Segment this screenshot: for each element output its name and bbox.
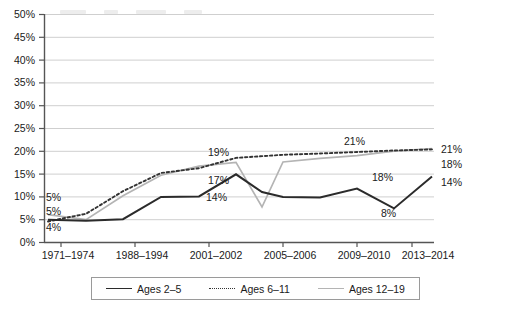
chart-legend: Ages 2–5 Ages 6–11 Ages 12–19 bbox=[91, 277, 420, 300]
legend-swatch-dotted-icon bbox=[209, 288, 235, 289]
y-tick-label-10: 10% bbox=[14, 190, 35, 202]
y-tick-label-0: 0% bbox=[20, 236, 35, 248]
data-label-right-ages-6-11: 21% bbox=[344, 135, 365, 147]
data-label-start-ages-12-19: 5% bbox=[46, 191, 61, 203]
cropped-title-artifact bbox=[60, 0, 420, 7]
x-tick-label-2005-2006: 2005–2006 bbox=[264, 249, 317, 261]
y-tick-label-40: 40% bbox=[14, 54, 35, 66]
x-tick-label-2009-2010: 2009–2010 bbox=[338, 249, 391, 261]
y-tick-label-15: 15% bbox=[14, 168, 35, 180]
data-label-mid-ages-12-19: 19% bbox=[208, 146, 229, 158]
line-chart-svg: 50% 45% 40% 35% 30% 25% 20% 15% 10% 5% 0… bbox=[0, 0, 511, 311]
data-label-end-ages-12-19: 18% bbox=[441, 158, 462, 170]
y-tick-label-25: 25% bbox=[14, 122, 35, 134]
legend-item-ages-2-5[interactable]: Ages 2–5 bbox=[106, 283, 181, 295]
series-line-ages-12-19 bbox=[48, 149, 432, 220]
legend-swatch-solid-gray-icon bbox=[318, 288, 344, 289]
x-tick-label-1988-1994: 1988–1994 bbox=[116, 249, 169, 261]
chart-container: 50% 45% 40% 35% 30% 25% 20% 15% 10% 5% 0… bbox=[0, 0, 511, 311]
y-tick-label-5: 5% bbox=[20, 213, 35, 225]
data-label-mid-ages-6-11: 17% bbox=[208, 174, 229, 186]
legend-item-ages-6-11[interactable]: Ages 6–11 bbox=[209, 283, 289, 295]
y-axis-ticks bbox=[39, 15, 44, 243]
data-label-right-ages-2-5: 8% bbox=[381, 207, 396, 219]
data-label-right-ages-12-19: 18% bbox=[372, 171, 393, 183]
y-tick-label-45: 45% bbox=[14, 31, 35, 43]
legend-label-ages-6-11: Ages 6–11 bbox=[240, 283, 289, 295]
y-tick-label-30: 30% bbox=[14, 99, 35, 111]
x-tick-label-2013-2014: 2013–2014 bbox=[402, 249, 455, 261]
y-tick-label-35: 35% bbox=[14, 76, 35, 88]
gridlines bbox=[44, 15, 434, 220]
legend-swatch-solid-dark-icon bbox=[106, 288, 132, 289]
y-tick-label-50: 50% bbox=[14, 8, 35, 20]
y-tick-label-20: 20% bbox=[14, 145, 35, 157]
x-tick-label-2001-2002: 2001–2002 bbox=[190, 249, 243, 261]
data-label-end-ages-2-5: 14% bbox=[441, 176, 462, 188]
data-label-end-ages-6-11: 21% bbox=[441, 143, 462, 155]
x-tick-label-1971-1974: 1971–1974 bbox=[42, 249, 95, 261]
data-label-start-ages-2-5: 5% bbox=[46, 205, 61, 217]
data-label-start-ages-6-11: 4% bbox=[46, 221, 61, 233]
series-line-ages-6-11 bbox=[48, 149, 432, 221]
legend-label-ages-2-5: Ages 2–5 bbox=[137, 283, 181, 295]
data-label-mid-ages-2-5: 14% bbox=[206, 191, 227, 203]
legend-item-ages-12-19[interactable]: Ages 12–19 bbox=[318, 283, 405, 295]
legend-label-ages-12-19: Ages 12–19 bbox=[349, 283, 405, 295]
